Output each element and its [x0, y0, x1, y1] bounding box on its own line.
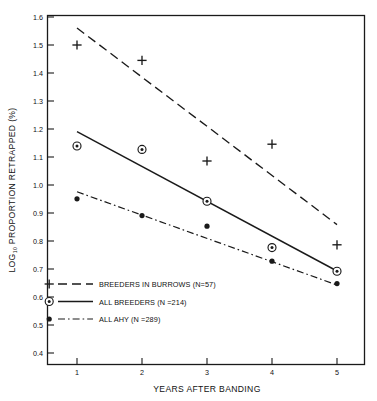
series-all-ahy-markers — [74, 196, 339, 286]
x-tick-label: 2 — [140, 368, 144, 377]
legend-label: BREEDERS IN BURROWS (N=57) — [99, 280, 216, 289]
y-tick-label: 1.6 — [33, 13, 43, 22]
data-point-marker-circled-dot — [73, 142, 81, 150]
x-tick-label: 3 — [205, 368, 209, 377]
fit-line-all-ahy — [77, 192, 337, 285]
x-axis-title: YEARS AFTER BANDING — [153, 384, 260, 394]
legend-marker-dot-icon — [47, 316, 52, 321]
y-tick-label: 0.4 — [33, 349, 43, 358]
y-tick-label: 1.2 — [33, 125, 43, 134]
fit-line-breeders-in-burrows — [77, 28, 337, 225]
legend-marker-circled-dot-icon — [45, 298, 53, 306]
y-axis-title-suffix: PROPORTION RETRAPPED (%) — [7, 107, 17, 246]
data-point-marker-circled-dot — [203, 197, 211, 205]
data-point-marker-plus — [267, 140, 276, 149]
legend-label: ALL AHY (N =289) — [99, 315, 160, 324]
x-tick-label: 1 — [75, 368, 79, 377]
data-point-marker-circled-dot — [333, 267, 341, 275]
y-tick-label: 1.3 — [33, 97, 43, 106]
y-tick-label: 1.0 — [33, 181, 43, 190]
data-point-marker-plus — [202, 156, 211, 165]
data-point-marker-circled-dot — [138, 145, 146, 153]
svg-text:LOG10 PROPORTION RETRAPPED (%): LOG10 PROPORTION RETRAPPED (%) — [7, 107, 18, 272]
data-point-marker-plus — [137, 56, 146, 65]
y-tick-label: 0.7 — [33, 265, 43, 274]
chart-canvas: 1.6 1.5 1.4 1.3 1.2 1.1 1.0 0.9 0.8 0.7 … — [0, 0, 377, 401]
data-point-marker-plus — [72, 40, 81, 49]
plot-frame — [48, 16, 365, 365]
data-point-marker-dot — [139, 213, 144, 218]
y-axis-title: LOG10 PROPORTION RETRAPPED (%) — [7, 107, 18, 272]
legend-label: ALL BREEDERS (N =214) — [99, 298, 187, 307]
data-point-marker-circled-dot — [268, 244, 276, 252]
data-point-marker-plus — [332, 240, 341, 249]
y-tick-label: 1.5 — [33, 41, 43, 50]
legend-item-all-breeders[interactable]: ALL BREEDERS (N =214) — [45, 298, 186, 307]
x-tick-label: 5 — [335, 368, 339, 377]
y-axis-tick-labels: 1.6 1.5 1.4 1.3 1.2 1.1 1.0 0.9 0.8 0.7 … — [33, 13, 43, 358]
y-axis-title-prefix: LOG — [7, 253, 17, 272]
legend-item-all-ahy[interactable]: ALL AHY (N =289) — [47, 315, 161, 324]
x-tick-label: 4 — [270, 368, 274, 377]
y-tick-label: 0.5 — [33, 321, 43, 330]
chart-figure: 1.6 1.5 1.4 1.3 1.2 1.1 1.0 0.9 0.8 0.7 … — [0, 0, 377, 401]
y-tick-label: 1.1 — [33, 153, 43, 162]
y-tick-label: 0.6 — [33, 293, 43, 302]
y-tick-label: 0.9 — [33, 209, 43, 218]
y-tick-label: 0.8 — [33, 237, 43, 246]
chart-legend: BREEDERS IN BURROWS (N=57) ALL BREEDERS … — [45, 279, 216, 324]
data-point-marker-dot — [334, 281, 339, 286]
x-axis-tick-labels: 1 2 3 4 5 — [75, 368, 339, 377]
data-point-marker-dot — [74, 196, 79, 201]
data-point-marker-dot — [204, 224, 209, 229]
series-breeders-in-burrows-markers — [72, 40, 341, 249]
x-axis-ticks — [77, 358, 337, 365]
legend-marker-plus-icon — [45, 279, 54, 288]
legend-item-breeders-in-burrows[interactable]: BREEDERS IN BURROWS (N=57) — [45, 279, 216, 289]
y-tick-label: 1.4 — [33, 69, 43, 78]
data-point-marker-dot — [269, 259, 274, 264]
